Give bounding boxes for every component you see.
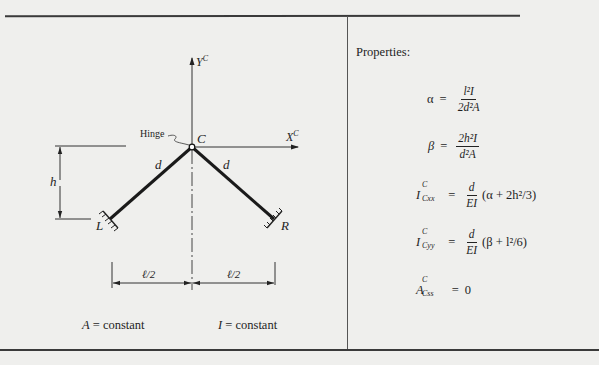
left-member-label: d <box>155 157 162 173</box>
left-member <box>110 147 192 219</box>
area-constant-note: A = constant <box>82 318 145 333</box>
hinge-leader <box>168 135 189 145</box>
hinge-circle <box>189 144 195 150</box>
acss-formula: ACCss = 0 <box>416 283 471 298</box>
hinge-label: Hinge <box>140 128 164 139</box>
right-support-label: R <box>281 218 289 234</box>
span-dimension <box>112 262 275 288</box>
properties-title: Properties: <box>356 45 410 60</box>
height-dimension <box>55 146 126 219</box>
height-label: h <box>50 174 57 190</box>
right-member <box>192 147 274 219</box>
icyy-formula: ICCyy = dEI (β + l²/6) <box>416 228 527 257</box>
right-span-label: ℓ/2 <box>227 268 240 280</box>
left-span-label: ℓ/2 <box>142 268 155 280</box>
left-support-label: L <box>96 218 103 234</box>
right-member-label: d <box>223 157 230 173</box>
beta-formula: β = 2h²Id²A <box>428 132 482 161</box>
y-axis-label: YC <box>196 54 208 70</box>
hinge-point-label: C <box>197 131 206 147</box>
x-axis-label: XC <box>286 129 299 145</box>
icxx-formula: ICCxx = dEI (α + 2h²/3) <box>416 181 536 210</box>
alpha-formula: α = l²I2d²A <box>427 85 485 114</box>
inertia-constant-note: I = constant <box>218 318 277 333</box>
